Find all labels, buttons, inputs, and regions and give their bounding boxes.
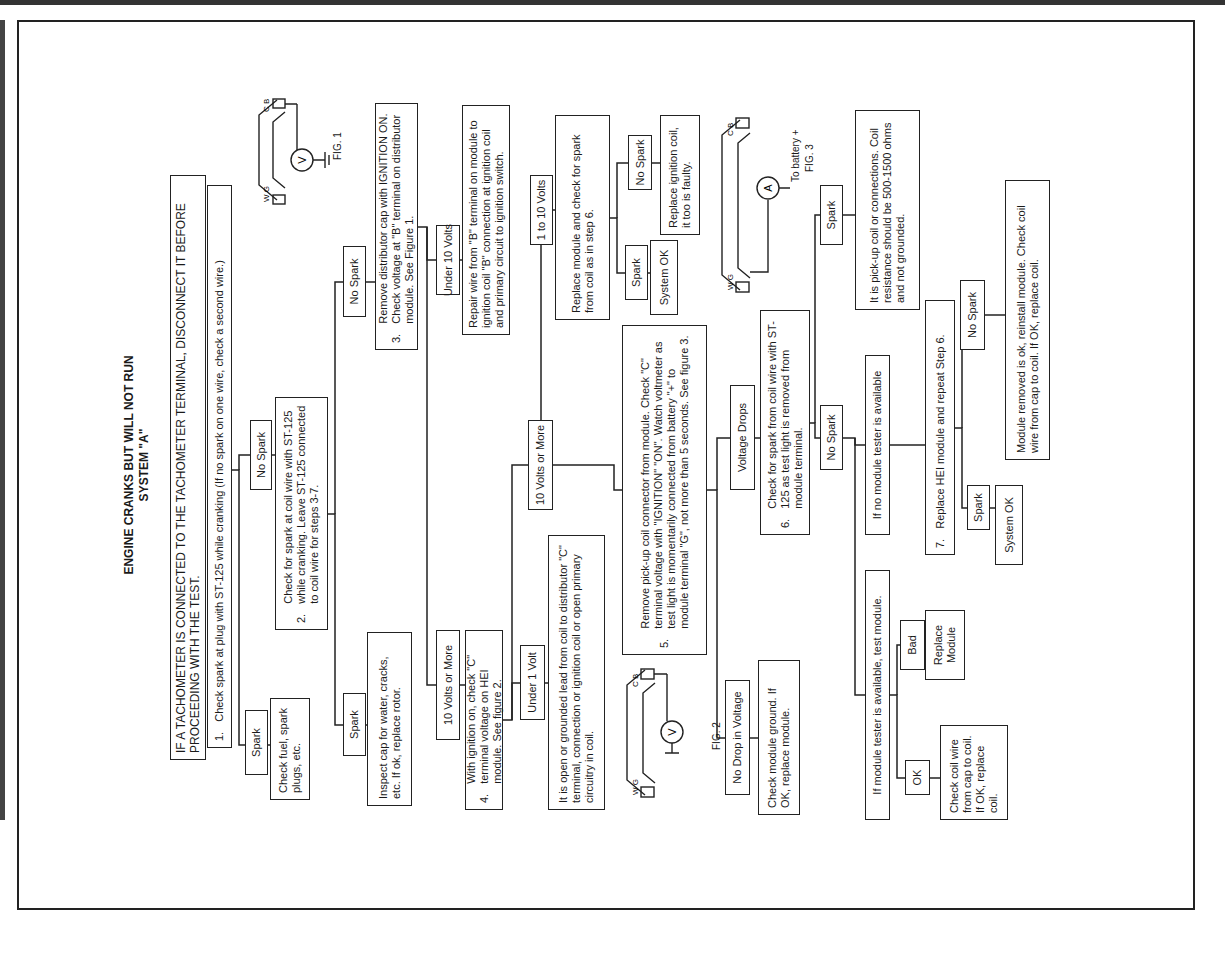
system-ok-text: System OK [658,250,671,306]
under-ten-volts-label: Under 10 Volts [436,225,460,295]
fig-1-label: FIG. 1 [332,132,343,160]
no-spark-text: No Spark [634,140,647,186]
replace-module-check-text: Replace module and check for spark from … [570,122,596,313]
replace-module-check-box: Replace module and check for spark from … [555,115,610,320]
check-coil-wire-text: Check coil wire from cap to coil. If OK,… [948,732,1000,813]
replace-ignition-coil-box: Replace ignition coil, it too is faulty. [660,115,700,235]
step-5-text: Remove pick-up coil connector from modul… [639,332,691,629]
fig-2-label: FIG. 2 [711,722,722,750]
module-removed-text: Module removed is ok, reinstall module. … [1015,187,1041,453]
system-ok-text: System OK [1003,497,1016,553]
no-spark-label-3: No Spark [628,135,652,190]
rotated-flowchart-page: ENGINE CRANKS BUT WILL NOT RUN SYSTEM "A… [17,20,1195,910]
tester-available-text: If module tester is available, test modu… [871,595,884,794]
svg-text:W G: W G [262,186,271,202]
title-line-1: ENGINE CRANKS BUT WILL NOT RUN [122,20,137,910]
diagram-title: ENGINE CRANKS BUT WILL NOT RUN SYSTEM "A… [122,20,152,910]
step-1-number: 1. [213,732,226,741]
step-7-text: Replace HEI module and repeat Step 6. [934,334,947,528]
svg-text:A: A [762,184,774,192]
spark-label-5: Spark [967,485,990,530]
step-3-text: Remove distributor cap with IGNITION ON.… [377,110,416,324]
step-1-box: 1. Check spark at plug with ST-125 while… [207,185,232,748]
step-7-box: 7. Replace HEI module and repeat Step 6. [925,300,955,555]
module-removed-ok-box: Module removed is ok, reinstall module. … [1005,180,1050,460]
step-5-box: 5. Remove pick-up coil connector from mo… [622,325,707,655]
step-4-text: With ignition on, check "C" terminal vol… [465,637,504,784]
hei-module-voltmeter-icon: V C B W G [615,655,715,805]
ten-volts-text: 10 Volts or More [442,645,455,725]
check-module-ground-text: Check module ground. If OK, replace modu… [766,667,792,808]
svg-text:W G: W G [726,274,735,290]
spark-label-4: Spark [820,185,843,245]
ok-text: OK [911,770,924,786]
svg-text:C B: C B [262,99,271,112]
ten-volts-text: 10 Volts or More [534,425,547,505]
step-2-box: 2. Check for spark at coil wire with ST-… [275,397,328,630]
no-spark-text: No Spark [825,415,838,461]
step-5-number: 5. [658,639,671,648]
spark-text: Spark [630,258,643,287]
under-one-volt-label: Under 1 Volt [520,645,545,720]
no-tester-box: If no module tester is available [865,355,890,535]
no-spark-label-2: No Spark [343,246,366,317]
no-tester-text: If no module tester is available [871,371,884,520]
pickup-coil-box: It is pick-up coil or connections. Coil … [855,110,920,310]
figure-1: V C B W G FIG. 1 [247,90,347,210]
ok-label: OK [905,760,930,795]
spark-text: Spark [825,201,838,230]
voltage-drops-label: Voltage Drops [730,385,755,490]
bad-text: Bad [906,635,919,655]
spark-text: Spark [348,710,361,739]
no-drop-in-voltage-label: No Drop in Voltage [725,680,750,795]
svg-text:V: V [666,728,678,736]
check-fuel-text: Check fuel, spark plugs, etc. [277,705,303,793]
check-fuel-box: Check fuel, spark plugs, etc. [270,698,310,800]
voltage-drops-text: Voltage Drops [736,403,749,472]
replace-module-box: Replace Module [925,610,965,680]
page-edge-top [0,0,1225,5]
title-line-2: SYSTEM "A" [137,20,152,910]
open-grounded-text: It is open or grounded lead from coil to… [557,542,596,803]
figure-3: A C B W G To battery + FIG. 3 [710,105,820,300]
page-edge-left [0,20,5,820]
replace-coil-text: Replace ignition coil, it too is faulty. [667,122,693,228]
svg-text:C B: C B [726,123,735,136]
repair-wire-text: Repair wire from "B" terminal on module … [467,112,506,328]
tachometer-warning-box: IF A TACHOMETER IS CONNECTED TO THE TACH… [170,175,206,760]
check-coil-wire-box: Check coil wire from cap to coil. If OK,… [940,725,1008,820]
no-spark-label-4: No Spark [820,405,843,470]
no-spark-label-5: No Spark [960,280,985,350]
pickup-coil-text: It is pick-up coil or connections. Coil … [868,117,907,303]
step-6-box: 6. Check for spark from coil wire with S… [760,310,810,535]
bad-label: Bad [900,620,925,670]
step-4-number: 4. [478,794,491,803]
ten-volts-or-more-label-1: 10 Volts or More [436,630,460,740]
spark-label-3: Spark [625,245,648,300]
check-module-ground-box: Check module ground. If OK, replace modu… [758,660,800,815]
one-to-ten-volts-label: 1 to 10 Volts [530,175,553,245]
one-to-ten-text: 1 to 10 Volts [535,180,548,241]
fig-3-battery-note: To battery + [790,129,801,182]
under-one-text: Under 1 Volt [526,652,539,713]
tester-available-box: If module tester is available, test modu… [865,570,890,820]
inspect-cap-box: Inspect cap for water, cracks, etc. If o… [367,632,412,806]
no-drop-text: No Drop in Voltage [731,691,744,783]
no-spark-text: No Spark [966,292,979,338]
no-spark-text: No Spark [255,432,268,478]
replace-module-text: Replace Module [932,617,958,673]
step-7-number: 7. [934,539,947,548]
step-6-number: 6. [779,519,792,528]
step-3-number: 3. [390,334,403,343]
step-2-number: 2. [295,614,308,623]
svg-text:C B: C B [631,674,640,687]
figure-2: V C B W G FIG. 2 [615,655,725,805]
repair-wire-box: Repair wire from "B" terminal on module … [462,105,510,335]
system-ok-box-2: System OK [995,485,1023,565]
step-6-text: Check for spark from coil wire with ST-1… [766,317,805,509]
step-1-text: Check spark at plug with ST-125 while cr… [213,260,226,722]
svg-text:W G: W G [631,779,640,795]
ten-volts-or-more-label-2: 10 Volts or More [528,420,553,510]
inspect-cap-text: Inspect cap for water, cracks, etc. If o… [377,639,403,799]
spark-label-1: Spark [245,710,268,775]
